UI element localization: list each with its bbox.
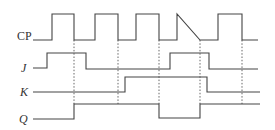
signal-label-q: Q <box>19 113 28 125</box>
signal-label-k: K <box>20 86 28 98</box>
timing-diagram: CP J K Q <box>0 0 275 130</box>
waveform-j <box>33 53 258 69</box>
waveform-q <box>33 104 260 119</box>
waveform-canvas <box>0 0 275 130</box>
clock-edge-guides <box>74 40 242 104</box>
waveform-cp <box>33 14 258 40</box>
signal-label-j: J <box>21 62 26 74</box>
waveform-k <box>33 77 260 92</box>
signal-label-cp: CP <box>17 30 32 42</box>
